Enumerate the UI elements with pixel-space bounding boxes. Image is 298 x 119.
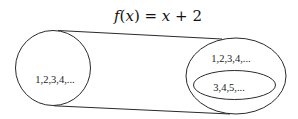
expression-constant: + 2 <box>170 7 202 25</box>
codomain-set-ellipse <box>186 38 286 114</box>
equals-sign: = <box>140 7 162 25</box>
domain-set-circle <box>16 31 91 106</box>
mapping-line-top <box>58 31 222 40</box>
function-mapping-diagram: f(x) = x + 2 1,2,3,4,... 1,2,3,4,... 3,4… <box>0 0 298 119</box>
function-title: f(x) = x + 2 <box>113 7 202 25</box>
range-set-label: 3,4,5,... <box>213 82 245 93</box>
codomain-set-label: 1,2,3,4,... <box>211 53 250 64</box>
mapping-line-bottom <box>54 106 230 114</box>
domain-set-label: 1,2,3,4,... <box>35 74 74 85</box>
